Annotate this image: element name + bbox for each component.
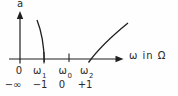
- value-label-neg-one: −1: [33, 80, 48, 90]
- x-axis-arrowhead-icon: [116, 56, 124, 63]
- tick-label-omega0-text: ω: [59, 65, 67, 76]
- curve-left-branch: [37, 20, 44, 62]
- tick-label-origin: 0: [16, 66, 22, 79]
- value-label-pos-one: +1: [78, 80, 93, 90]
- tick-label-omega1: ω1: [33, 66, 46, 79]
- tick-label-omega2-text: ω: [80, 65, 88, 76]
- frequency-mapping-plot: a ω in Ω 0 ω1 ω0 ω2 −∞ −1 0 +1: [0, 0, 178, 96]
- tick-label-origin-text: 0: [16, 65, 22, 76]
- x-axis-label: ω in Ω: [129, 51, 167, 61]
- tick-label-omega0: ω0: [59, 66, 72, 79]
- tick-label-omega1-text: ω: [33, 65, 41, 76]
- curve-right-branch: [89, 23, 129, 63]
- y-axis-arrowhead-icon: [17, 11, 23, 19]
- tick-label-omega0-sub: 0: [67, 72, 71, 80]
- tick-label-omega2: ω2: [80, 66, 93, 79]
- value-label-neg-infinity: −∞: [5, 80, 22, 90]
- y-axis-label: a: [17, 0, 23, 9]
- value-label-zero: 0: [59, 80, 65, 90]
